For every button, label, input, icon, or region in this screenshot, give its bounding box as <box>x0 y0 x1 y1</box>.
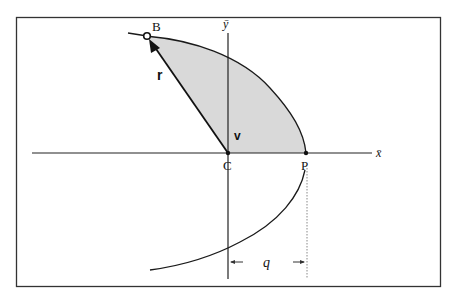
label-b: B <box>152 19 161 34</box>
label-y-axis: ȳ <box>222 17 229 31</box>
point-b-marker <box>144 33 151 40</box>
point-c-marker <box>226 151 230 155</box>
label-x-axis: x̄ <box>375 146 382 160</box>
label-c: C <box>223 158 232 173</box>
shaded-sector <box>147 36 306 153</box>
label-r: r <box>157 67 163 83</box>
q-arrow-right-head-icon <box>300 260 305 264</box>
label-p: P <box>301 158 308 173</box>
q-arrow-left-head-icon <box>230 260 235 264</box>
label-q: q <box>263 255 270 270</box>
orbit-diagram: B C P r v x̄ ȳ q <box>0 0 457 302</box>
label-v: v <box>234 129 241 143</box>
point-p-marker <box>304 151 308 155</box>
